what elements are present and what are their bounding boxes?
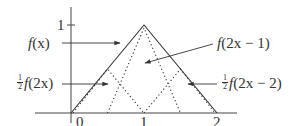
x-tick-label-1: 1: [140, 115, 148, 126]
diagram: 1 0 1 2 f(x) 12f(2x) f(2x − 1) 12f(2x − …: [0, 0, 302, 126]
fn-arg: (x): [32, 35, 50, 51]
x-tick-label-0: 0: [76, 115, 84, 126]
fraction-half: 12: [17, 74, 23, 91]
arrow-f2x-minus-1: [145, 44, 213, 63]
frac-den: 2: [222, 83, 228, 91]
y-tick-label-1: 1: [57, 18, 65, 33]
curve-f-2x-minus-1: [108, 28, 181, 113]
frac-den: 2: [17, 83, 23, 91]
fn-arg: (2x − 2): [233, 75, 281, 91]
fn-arg: (2x): [28, 75, 53, 91]
label-f-x: f(x): [28, 36, 50, 51]
label-half-f-2x: 12f(2x): [17, 76, 53, 93]
diagram-canvas: [0, 0, 302, 126]
curve-f-x: [71, 25, 217, 113]
x-tick-label-2: 2: [213, 115, 221, 126]
curve-half-f-2x-minus-2: [144, 69, 215, 113]
label-f-2x-minus-1: f(2x − 1): [217, 36, 270, 51]
fn-arg: (2x − 1): [221, 35, 269, 51]
label-half-f-2x-minus-2: 12f(2x − 2): [222, 76, 282, 93]
curve-half-f-2x: [73, 69, 144, 113]
fraction-half: 12: [222, 74, 228, 91]
